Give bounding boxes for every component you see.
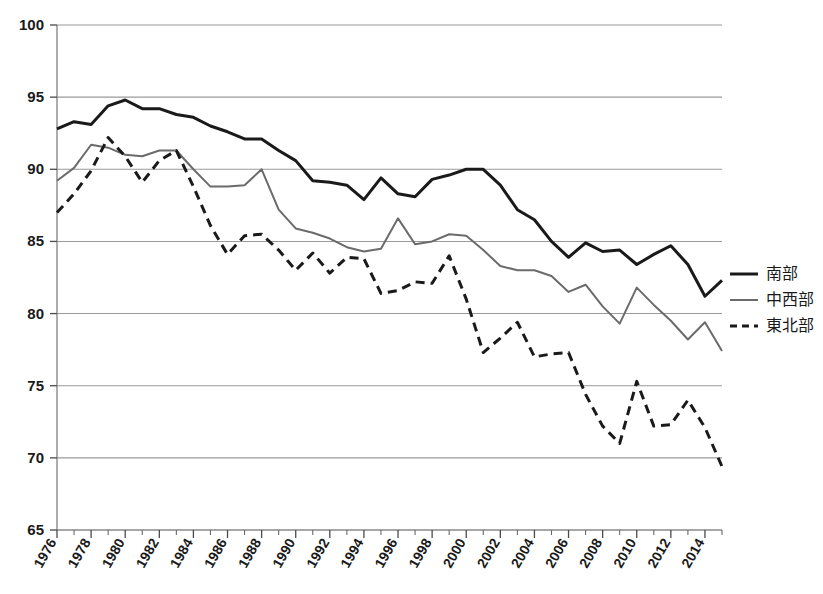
x-tick-label: 1976 <box>30 535 60 570</box>
x-tick-label: 1990 <box>269 535 299 570</box>
x-tick-label: 1992 <box>303 535 333 570</box>
x-tick-label: 2004 <box>508 535 538 570</box>
legend-label-3: 東北部 <box>766 317 814 334</box>
x-tick-label: 1980 <box>98 535 128 570</box>
x-tick-label: 1994 <box>337 535 367 570</box>
x-tick-label: 1982 <box>132 535 162 570</box>
x-tick-label: 1998 <box>405 535 435 570</box>
legend-label-2: 中西部 <box>766 291 814 308</box>
x-tick-label: 2000 <box>439 535 469 570</box>
x-tick-label: 1986 <box>201 535 231 570</box>
x-tick-label: 1978 <box>64 535 94 570</box>
chart-legend: 南部中西部東北部 <box>730 265 814 334</box>
series-line-2 <box>57 145 722 351</box>
x-tick-label: 1988 <box>235 535 265 570</box>
x-tick-label: 2006 <box>542 535 572 570</box>
x-tick-label: 2002 <box>473 535 503 570</box>
x-tick-label: 2014 <box>678 535 708 570</box>
chart-container: 65707580859095100 1976197819801982198419… <box>0 0 823 594</box>
chart-axes <box>57 25 722 530</box>
y-tick-label: 75 <box>27 377 44 394</box>
x-tick-label: 2008 <box>576 535 606 570</box>
y-axis-ticks: 65707580859095100 <box>19 16 57 538</box>
y-tick-label: 95 <box>27 88 44 105</box>
x-tick-label: 2010 <box>610 535 640 570</box>
y-tick-label: 100 <box>19 16 44 33</box>
x-axis-ticks: 1976197819801982198419861988199019921994… <box>30 530 722 570</box>
gridlines <box>57 25 722 458</box>
y-tick-label: 65 <box>27 521 44 538</box>
x-tick-label: 1984 <box>167 535 197 570</box>
y-tick-label: 90 <box>27 160 44 177</box>
legend-label-1: 南部 <box>766 265 798 282</box>
x-tick-label: 1996 <box>371 535 401 570</box>
y-tick-label: 85 <box>27 232 44 249</box>
y-tick-label: 80 <box>27 305 44 322</box>
line-chart: 65707580859095100 1976197819801982198419… <box>0 0 823 594</box>
x-tick-label: 2012 <box>644 535 674 570</box>
y-tick-label: 70 <box>27 449 44 466</box>
series-line-1 <box>57 100 722 296</box>
series-lines <box>57 100 722 466</box>
